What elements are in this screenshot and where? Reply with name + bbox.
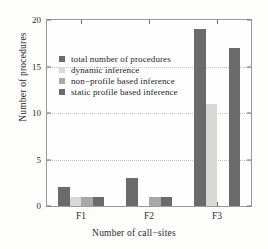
bar-f2-series-1 (126, 178, 138, 206)
bar-f2-series-3 (149, 197, 161, 206)
legend-item-1: total number of procedures (59, 53, 178, 64)
y-tick-label: 15 (32, 62, 47, 72)
y-tick-mark (47, 159, 51, 160)
x-tick-label-f2: F2 (144, 206, 154, 221)
y-tick-mark (47, 66, 51, 67)
x-tick-label-f1: F1 (76, 206, 86, 221)
bar-f3-series-2 (206, 104, 218, 206)
x-tick-mark (149, 20, 150, 24)
legend-item-3: non−profile based inference (59, 75, 178, 86)
y-tick-label: 20 (32, 15, 47, 25)
legend-label: dynamic inference (71, 65, 139, 75)
y-tick-mark (247, 206, 251, 207)
bar-f2-series-4 (161, 197, 173, 206)
legend-item-4: static profile based inference (59, 86, 178, 97)
gridline (47, 113, 251, 114)
x-tick-mark (217, 20, 218, 24)
y-axis-title: Number of procedures (18, 2, 28, 152)
bar-f1-series-4 (93, 197, 105, 206)
y-tick-mark (247, 20, 251, 21)
plot-area: 05101520 F1F2F3 total number of procedur… (46, 19, 252, 207)
y-tick-label: 0 (37, 201, 48, 211)
bar-f1-series-1 (58, 187, 70, 206)
legend-label: non−profile based inference (71, 76, 175, 86)
bar-chart-figure: Number of procedures Number of call−site… (0, 0, 268, 249)
y-tick-mark (247, 66, 251, 67)
x-tick-mark (81, 20, 82, 24)
bar-f3-series-4 (229, 48, 241, 206)
bar-f3-series-1 (194, 29, 206, 206)
y-tick-label: 5 (37, 155, 48, 165)
legend-swatch-icon (59, 78, 65, 84)
y-tick-label: 10 (32, 108, 47, 118)
legend-label: total number of procedures (71, 54, 171, 64)
legend-swatch-icon (59, 56, 65, 62)
legend-swatch-icon (59, 67, 65, 73)
y-tick-mark (247, 159, 251, 160)
y-tick-mark (47, 20, 51, 21)
x-axis-title: Number of call−sites (0, 228, 268, 238)
bar-f1-series-2 (70, 197, 82, 206)
chart-legend: total number of proceduresdynamic infere… (59, 53, 178, 97)
legend-label: static profile based inference (71, 87, 178, 97)
x-tick-label-f3: F3 (212, 206, 222, 221)
bar-f1-series-3 (81, 197, 93, 206)
legend-item-2: dynamic inference (59, 64, 178, 75)
gridline (47, 160, 251, 161)
legend-swatch-icon (59, 89, 65, 95)
y-tick-mark (47, 113, 51, 114)
y-tick-mark (47, 206, 51, 207)
y-tick-mark (247, 113, 251, 114)
